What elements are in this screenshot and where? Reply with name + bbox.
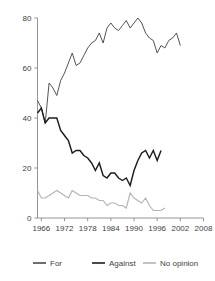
- x-axis-tick-label: 1972: [56, 224, 74, 233]
- series-line-against: [38, 108, 162, 186]
- x-axis-tick-label: 1984: [102, 224, 120, 233]
- y-axis-tick-label: 60: [23, 64, 32, 73]
- chart-plot-area: 020406080 196619721978198419901996200220…: [0, 0, 215, 281]
- y-axis-tick-label: 20: [23, 164, 32, 173]
- line-chart: 020406080 196619721978198419901996200220…: [0, 0, 215, 281]
- x-axis-tick-label: 2008: [195, 224, 213, 233]
- x-axis-tick-label: 1978: [79, 224, 97, 233]
- x-axis-tick-label: 1966: [32, 224, 50, 233]
- series-line-for: [38, 18, 181, 123]
- legend-label-no-opinion: No opinion: [160, 259, 198, 268]
- series-lines: [38, 18, 181, 211]
- y-axis-tick-label: 80: [23, 14, 32, 23]
- series-line-no-opinion: [38, 191, 165, 211]
- y-axis-tick-label: 0: [27, 214, 32, 223]
- legend-label-against: Against: [109, 259, 136, 268]
- chart-legend: ForAgainstNo opinion: [33, 259, 198, 268]
- x-axis: 19661972197819841990199620022008: [32, 218, 212, 233]
- legend-label-for: For: [50, 259, 62, 268]
- y-axis: 020406080: [23, 14, 38, 223]
- x-axis-tick-label: 1996: [148, 224, 166, 233]
- x-axis-tick-label: 2002: [171, 224, 189, 233]
- x-axis-tick-label: 1990: [125, 224, 143, 233]
- y-axis-tick-label: 40: [23, 114, 32, 123]
